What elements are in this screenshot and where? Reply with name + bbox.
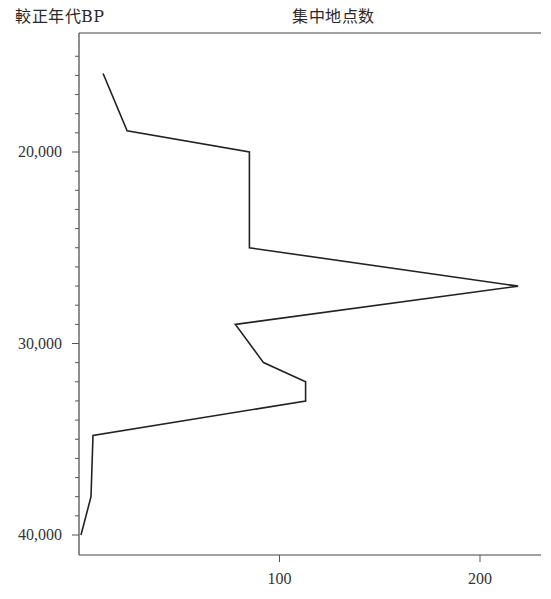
y-tick-label: 30,000 bbox=[18, 335, 62, 352]
x-tick-label: 100 bbox=[268, 570, 292, 587]
line-chart: 20,00030,00040,000 100200 bbox=[0, 0, 551, 599]
y-axis-ticks: 20,00030,00040,000 bbox=[18, 56, 79, 543]
series-line bbox=[81, 74, 518, 536]
x-tick-label: 200 bbox=[468, 570, 492, 587]
plot-frame bbox=[79, 33, 541, 555]
y-tick-label: 20,000 bbox=[18, 143, 62, 160]
x-axis-ticks: 100200 bbox=[268, 555, 493, 587]
y-tick-label: 40,000 bbox=[18, 526, 62, 543]
